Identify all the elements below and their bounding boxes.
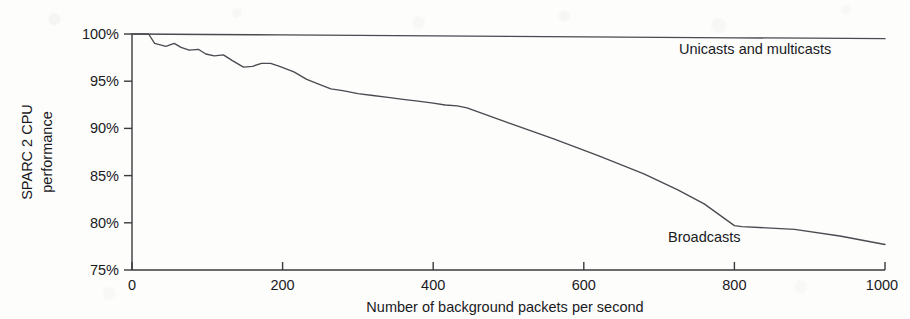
x-axis-title: Number of background packets per second (366, 299, 643, 315)
x-tick-label-1000: 1000 (866, 277, 898, 293)
series-line-broadcasts (132, 34, 885, 245)
y-tick-label-100: 100% (82, 26, 119, 42)
annotation-broadcasts: Broadcasts (668, 229, 741, 245)
y-axis-title-line2: performance (39, 111, 55, 192)
y-tick-label-90: 90% (90, 120, 119, 136)
x-tick-marks (132, 262, 885, 270)
y-tick-label-95: 95% (90, 73, 119, 89)
x-tick-labels: 0 200 400 600 800 1000 (128, 277, 898, 293)
y-tick-label-80: 80% (90, 215, 119, 231)
y-tick-labels: 100% 95% 90% 85% 80% 75% (82, 26, 119, 278)
x-tick-label-200: 200 (270, 277, 294, 293)
chart-canvas: 100% 95% 90% 85% 80% 75% 0 200 400 600 8… (0, 0, 910, 319)
x-tick-label-600: 600 (572, 277, 596, 293)
y-tick-marks (124, 34, 132, 270)
y-tick-label-75: 75% (90, 262, 119, 278)
x-tick-label-800: 800 (722, 277, 746, 293)
y-tick-label-85: 85% (90, 168, 119, 184)
chart-figure: 100% 95% 90% 85% 80% 75% 0 200 400 600 8… (0, 0, 910, 319)
series-line-unicasts-and-multicasts (132, 34, 885, 39)
y-axis-title-line1: SPARC 2 CPU (19, 104, 35, 200)
annotation-unicasts-and-multicasts: Unicasts and multicasts (679, 41, 831, 57)
x-tick-label-400: 400 (421, 277, 445, 293)
x-tick-label-0: 0 (128, 277, 136, 293)
